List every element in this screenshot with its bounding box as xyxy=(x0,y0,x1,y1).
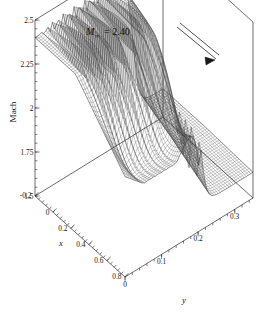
tick-label: -0.2 xyxy=(20,191,32,200)
y-axis-label: y xyxy=(181,295,186,305)
tick-label: 2 xyxy=(30,104,34,113)
x-axis-label: x xyxy=(58,238,63,248)
tick-label: 0.2 xyxy=(194,234,204,243)
tick-label: 0.3 xyxy=(230,212,240,221)
tick-label: 0.6 xyxy=(94,256,104,265)
tick-label: 0.8 xyxy=(112,272,122,281)
tick-label: 1.75 xyxy=(21,148,34,157)
mach-symbol: M xyxy=(85,26,95,37)
tick-label: 0 xyxy=(46,208,50,217)
tick-label: 0.1 xyxy=(157,257,167,266)
tick-label: 0.4 xyxy=(76,240,86,249)
tick-label: 0 xyxy=(123,280,127,289)
mach-value: = 2.40 xyxy=(104,26,130,37)
tick-label: 0.2 xyxy=(58,224,68,233)
mach-subscript: ∞ xyxy=(95,32,100,39)
tick-label: 2.25 xyxy=(21,60,34,69)
mach-surface-3d-figure: 1.51.7522.252.5-0.200.20.40.60.800.10.20… xyxy=(0,0,272,319)
tick-label: 2.5 xyxy=(24,16,34,25)
z-axis-label: Mach xyxy=(8,101,18,122)
